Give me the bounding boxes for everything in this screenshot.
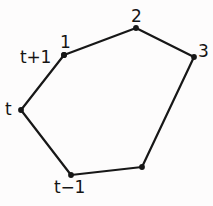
vertex-marker-v-t <box>18 107 24 113</box>
edge-2-3 <box>136 28 194 57</box>
label-1: 1 <box>60 34 71 51</box>
label-3: 3 <box>198 43 209 60</box>
polygon-graphic <box>0 0 213 206</box>
label-tm1: t−1 <box>54 179 85 196</box>
vertex-marker-v-4 <box>139 164 145 170</box>
label-tp1: t+1 <box>20 49 51 66</box>
label-2: 2 <box>131 8 142 25</box>
edge-3-4 <box>142 57 194 167</box>
polygon-diagram-canvas: 123tt+1t−1 <box>0 0 213 206</box>
edge-4-tm1 <box>71 167 142 175</box>
edge-1-2 <box>64 28 136 55</box>
edge-tm1-t <box>21 110 71 175</box>
label-t: t <box>5 101 11 118</box>
vertex-marker-v-tp1 <box>61 52 67 58</box>
vertex-marker-v-3 <box>191 54 197 60</box>
